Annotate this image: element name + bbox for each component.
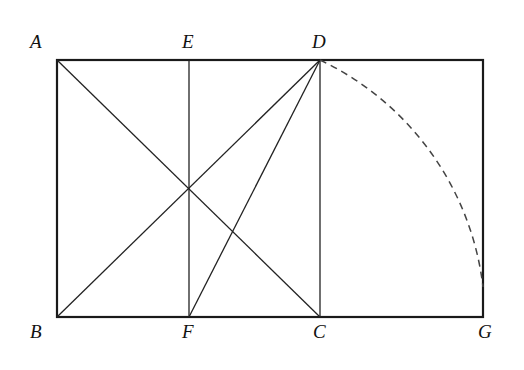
label-C: C xyxy=(313,321,326,342)
outer-rectangle xyxy=(57,60,483,317)
label-A: A xyxy=(28,31,42,52)
label-F: F xyxy=(181,321,194,342)
label-D: D xyxy=(311,31,326,52)
arc-D-to-G xyxy=(320,60,483,287)
label-G: G xyxy=(478,321,492,342)
line-FD xyxy=(189,60,320,317)
golden-rectangle-diagram: A E D B F C G xyxy=(0,0,524,370)
label-E: E xyxy=(181,31,194,52)
label-B: B xyxy=(30,321,42,342)
